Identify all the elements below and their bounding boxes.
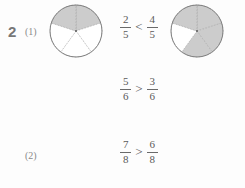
- fraction-right-3: 6 8: [147, 139, 158, 165]
- fraction-denominator: 5: [147, 29, 157, 41]
- problem-row-1: (1) 2 5 < 4 5: [0, 0, 245, 62]
- fraction-comparison-worksheet: 2 (1) 2 5 < 4 5 (2) 5 6: [0, 0, 245, 188]
- fraction-numerator: 4: [147, 14, 157, 26]
- fraction-denominator: 8: [121, 154, 131, 166]
- problem-row-3: (3) 7 8 > 6 8: [0, 125, 245, 187]
- fraction-numerator: 6: [147, 139, 157, 151]
- fraction-denominator: 8: [147, 154, 157, 166]
- relational-operator-3: >: [134, 144, 143, 160]
- sublabel-1: (1): [25, 27, 37, 37]
- fraction-denominator: 6: [147, 91, 157, 103]
- relational-operator-1: <: [134, 19, 143, 35]
- fraction-right-2: 3 6: [147, 76, 158, 102]
- fraction-numerator: 3: [147, 76, 157, 88]
- problem-row-2: (2) 5 6 > 3 6: [0, 62, 245, 124]
- fraction-left-3: 7 8: [120, 139, 131, 165]
- comparison-2: 5 6 > 3 6: [108, 76, 170, 102]
- figure-right-1: [168, 2, 226, 64]
- figure-left-1: [47, 2, 105, 64]
- fraction-numerator: 2: [121, 14, 131, 26]
- relational-operator-2: >: [134, 81, 143, 97]
- fraction-left-2: 5 6: [120, 76, 131, 102]
- fraction-right-1: 4 5: [147, 14, 158, 40]
- fraction-denominator: 5: [121, 29, 131, 41]
- fraction-left-1: 2 5: [120, 14, 131, 40]
- fraction-numerator: 7: [121, 139, 131, 151]
- fraction-numerator: 5: [121, 76, 131, 88]
- comparison-3: 7 8 > 6 8: [108, 139, 170, 165]
- fraction-denominator: 6: [121, 91, 131, 103]
- comparison-1: 2 5 < 4 5: [108, 14, 170, 40]
